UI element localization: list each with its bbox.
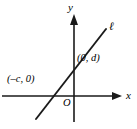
line-l-graph [36, 29, 106, 119]
line-l-label: ℓ [109, 21, 114, 33]
y-axis-label: y [68, 2, 73, 13]
x-intercept-point-label: (–c, 0) [7, 74, 34, 85]
y-axis-arrowhead [70, 14, 78, 25]
line-graph-figure: y x O (0, d) (–c, 0) ℓ [0, 0, 137, 129]
coordinate-plane-svg [0, 0, 137, 129]
origin-label: O [63, 98, 71, 109]
y-intercept-point-label: (0, d) [77, 53, 100, 64]
x-axis-arrowhead [112, 92, 122, 100]
x-axis-label: x [126, 90, 131, 101]
